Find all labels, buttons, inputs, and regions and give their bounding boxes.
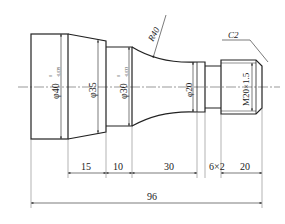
r40-label: R40 [145,25,161,44]
dim-total: 96 [147,191,157,202]
c2-label: C2 [228,30,239,40]
dim-15: 15 [81,161,91,172]
d35-label: φ35 [87,82,98,98]
dim-30: 30 [164,161,174,172]
thread-label: M20×1.5 [241,72,251,106]
d30-tol-upper: 0 [116,75,121,77]
d20-label: φ20 [184,82,194,97]
d40-label: φ40 [50,83,61,99]
shaft-drawing: φ40 0 -0.039 φ35 φ30 0 -0.033 φ20 M20×1.… [0,0,285,224]
dim-10: 10 [113,161,123,172]
shaft-outline [31,34,262,139]
dim-20: 20 [240,161,250,172]
d40-tol-lower: -0.039 [56,67,61,77]
d30-label: φ30 [118,83,129,99]
dim-groove: 6×2 [209,161,225,172]
c2-leader [222,40,268,62]
d40-tol-upper: 0 [48,75,53,77]
d30-tol-lower: -0.033 [124,67,129,77]
